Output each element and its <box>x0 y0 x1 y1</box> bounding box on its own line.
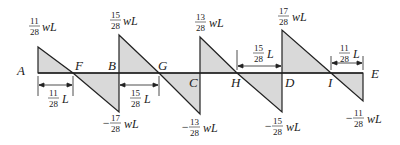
svg-text:28: 28 <box>340 54 350 64</box>
region-D-I <box>282 30 331 73</box>
svg-text:L: L <box>61 92 69 106</box>
svg-text:17: 17 <box>279 6 289 16</box>
region-H-D <box>237 73 282 112</box>
svg-text:15: 15 <box>131 88 141 98</box>
point-D: D <box>284 75 295 90</box>
svg-text:wL: wL <box>292 10 307 24</box>
svg-text:15: 15 <box>111 10 121 20</box>
dim-HD-label: 15 28 L <box>253 43 274 64</box>
svg-text:L: L <box>352 47 360 61</box>
shear-regions <box>38 30 363 114</box>
value-B-top: 15 28 wL <box>110 10 138 31</box>
svg-text:28: 28 <box>190 128 200 138</box>
point-A: A <box>16 63 25 78</box>
region-B-G <box>119 35 159 73</box>
svg-text:−: − <box>102 116 110 130</box>
point-F: F <box>74 58 84 73</box>
svg-text:28: 28 <box>254 54 264 64</box>
point-B: B <box>108 58 116 73</box>
svg-text:wL: wL <box>42 20 57 34</box>
svg-text:11: 11 <box>30 16 39 26</box>
svg-text:11: 11 <box>49 88 58 98</box>
svg-text:11: 11 <box>354 108 363 118</box>
svg-text:13: 13 <box>190 117 200 127</box>
svg-text:wL: wL <box>203 121 218 135</box>
svg-text:wL: wL <box>209 16 224 30</box>
region-C-H <box>200 37 237 73</box>
svg-text:−: − <box>264 119 272 133</box>
region-I-E <box>331 73 363 101</box>
value-B-bottom: − 17 28 wL <box>102 113 139 134</box>
point-H: H <box>230 75 241 90</box>
svg-text:wL: wL <box>286 120 301 134</box>
svg-text:28: 28 <box>111 21 121 31</box>
value-D-bottom: − 15 28 wL <box>264 116 301 137</box>
point-I: I <box>327 75 333 90</box>
shear-force-diagram: A F B G C H D I E 11 28 wL 15 28 wL − 17… <box>0 0 400 145</box>
svg-text:15: 15 <box>273 116 283 126</box>
svg-text:28: 28 <box>196 23 206 33</box>
svg-text:wL: wL <box>123 14 138 28</box>
svg-text:L: L <box>266 47 274 61</box>
region-A-F <box>38 47 73 73</box>
region-F-B <box>73 73 119 112</box>
point-E: E <box>370 66 379 81</box>
value-C-top: 13 28 wL <box>195 12 224 33</box>
svg-text:13: 13 <box>196 12 206 22</box>
point-G: G <box>158 58 168 73</box>
svg-text:−: − <box>345 111 353 125</box>
svg-text:28: 28 <box>30 27 40 37</box>
svg-text:28: 28 <box>111 124 121 134</box>
svg-text:11: 11 <box>340 43 349 53</box>
value-C-bottom: − 13 28 wL <box>181 117 218 138</box>
dim-BG-label: 15 28 L <box>130 88 151 109</box>
svg-text:28: 28 <box>354 119 364 129</box>
svg-text:28: 28 <box>279 17 289 27</box>
value-E-bottom: − 11 28 wL <box>345 108 382 129</box>
svg-text:28: 28 <box>49 99 59 109</box>
point-C: C <box>189 75 198 90</box>
svg-text:−: − <box>181 120 189 134</box>
svg-text:28: 28 <box>131 99 141 109</box>
svg-text:wL: wL <box>367 112 382 126</box>
dim-IE-label: 11 28 L <box>339 43 360 64</box>
value-A-top: 11 28 wL <box>29 16 57 37</box>
value-D-top: 17 28 wL <box>278 6 307 27</box>
svg-text:17: 17 <box>111 113 121 123</box>
dim-AF-label: 11 28 L <box>48 88 69 109</box>
svg-text:wL: wL <box>124 117 139 131</box>
svg-text:28: 28 <box>273 127 283 137</box>
svg-text:L: L <box>143 92 151 106</box>
svg-text:15: 15 <box>254 43 264 53</box>
